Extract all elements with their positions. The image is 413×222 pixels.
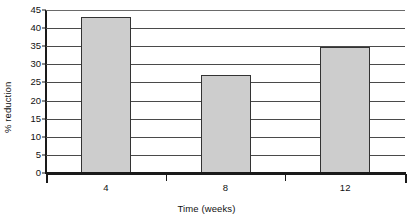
x-tick-label-8: 8 (223, 183, 228, 193)
y-tick-label-45: 45 (30, 5, 41, 15)
y-tick-label-35: 35 (30, 41, 41, 51)
x-tick-label-4: 4 (103, 183, 108, 193)
bar-8 (201, 75, 251, 173)
plot-area: 051015202530354045 (46, 10, 405, 173)
x-axis-tick-2 (285, 174, 286, 181)
x-axis-tick-0 (46, 174, 48, 183)
x-axis-title: Time (weeks) (0, 203, 413, 214)
x-axis-line (45, 172, 406, 174)
y-tick-label-25: 25 (30, 78, 41, 88)
x-axis-tick-3 (405, 174, 407, 183)
bar-4 (81, 17, 131, 173)
y-axis-title: % reduction (2, 52, 16, 162)
bar-12 (320, 47, 370, 173)
bar-chart: % reduction 051015202530354045 4812 Time… (0, 0, 413, 222)
y-tick-label-20: 20 (30, 96, 41, 106)
x-tick-label-12: 12 (340, 183, 351, 193)
x-axis-tick-1 (166, 174, 167, 181)
y-tick-label-30: 30 (30, 60, 41, 70)
y-tick-label-10: 10 (30, 132, 41, 142)
y-tick-label-0: 0 (36, 168, 41, 178)
y-tick-label-15: 15 (30, 114, 41, 124)
y-tick-label-40: 40 (30, 23, 41, 33)
y-tick-label-5: 5 (36, 150, 41, 160)
bars-layer (46, 10, 405, 173)
